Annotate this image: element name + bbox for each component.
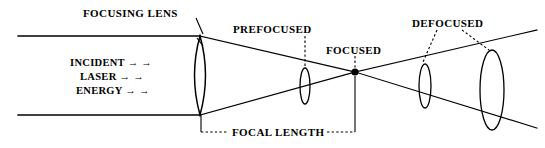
defocused-leader-far [462, 30, 489, 50]
defocused-spot-near [419, 64, 431, 108]
laser-focusing-diagram: FOCUSING LENS PREFOCUSED FOCUSED DEFOCUS… [0, 0, 545, 148]
focused-point [351, 68, 358, 75]
focused-label: FOCUSED [326, 44, 381, 56]
energy-label: ENERGY → → [76, 85, 150, 96]
defocused-label: DEFOCUSED [412, 17, 483, 29]
diverging-ray-upper [355, 30, 537, 72]
incident-label: INCIDENT → → [70, 57, 152, 68]
focusing-lens-label: FOCUSING LENS [83, 7, 178, 19]
diagram-canvas: FOCUSING LENS PREFOCUSED FOCUSED DEFOCUS… [0, 0, 545, 148]
laser-label: LASER → → [80, 71, 144, 82]
defocused-spot-far [480, 50, 504, 130]
prefocused-label: PREFOCUSED [233, 23, 312, 35]
focusing-lens-leader [196, 18, 203, 34]
focal-length-label: FOCAL LENGTH [232, 126, 325, 138]
converging-ray-lower [200, 72, 355, 115]
diverging-ray-lower [355, 72, 537, 128]
focusing-lens-shape [195, 36, 206, 115]
defocused-leader-near [423, 30, 437, 62]
